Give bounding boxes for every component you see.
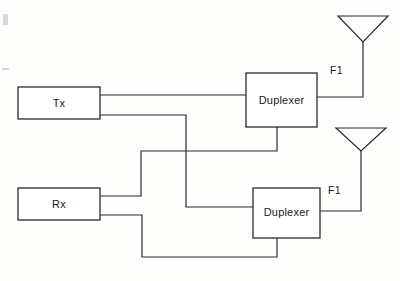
antenna-1-icon bbox=[338, 16, 388, 42]
block-label-rx: Rx bbox=[18, 198, 100, 210]
block-label-tx: Tx bbox=[18, 97, 100, 109]
wire-tx-to-duplexer2 bbox=[100, 115, 253, 207]
diagram-canvas: Tx Rx Duplexer Duplexer F1 F1 bbox=[0, 0, 400, 281]
antenna-2-icon bbox=[336, 128, 386, 151]
wire-group bbox=[100, 42, 363, 257]
diagram-vector-layer bbox=[0, 0, 400, 281]
wire-duplexer1-to-rx bbox=[100, 127, 277, 196]
antenna-2-frequency-label: F1 bbox=[328, 184, 341, 196]
antenna-group bbox=[336, 16, 388, 151]
antenna-1-frequency-label: F1 bbox=[330, 64, 343, 76]
wire-rx-to-duplexer2 bbox=[100, 215, 277, 257]
block-label-duplexer1: Duplexer bbox=[246, 94, 317, 106]
block-label-duplexer2: Duplexer bbox=[253, 206, 320, 218]
wire-duplexer2-to-antenna-2 bbox=[320, 151, 361, 211]
